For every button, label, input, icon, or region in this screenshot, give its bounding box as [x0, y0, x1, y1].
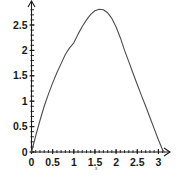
y-tick-label: 0 — [2, 147, 28, 158]
ticks-group — [30, 10, 163, 154]
y-tick-label: 1.5 — [2, 70, 28, 81]
y-tick-label: 0.5 — [2, 121, 28, 132]
data-curve — [32, 9, 165, 152]
x-axis-label: x — [95, 166, 98, 171]
y-tick-label: 1 — [2, 96, 28, 107]
y-tick-label: 2.5 — [2, 20, 28, 31]
chart-container: 00.511.522.5300.511.522.5 x — [0, 0, 179, 182]
y-tick-label: 2 — [2, 45, 28, 56]
data-series-group — [32, 9, 165, 152]
x-tick-label: 3 — [146, 157, 170, 168]
axes-group — [28, 1, 170, 156]
